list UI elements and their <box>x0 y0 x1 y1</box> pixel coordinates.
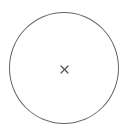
close-icon <box>60 65 69 74</box>
close-button[interactable]: Close <box>9 12 119 124</box>
